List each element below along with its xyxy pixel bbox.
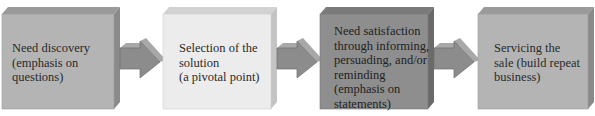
step-4-box: Servicing the sale (build repeat busines… — [474, 0, 595, 112]
step-3-box: Need satisfaction through informing, per… — [317, 0, 439, 112]
step-1-box: Need discovery (emphasis on questions) — [0, 0, 122, 112]
step-3-label: Need satisfaction through informing, per… — [334, 24, 429, 111]
step-2-box: Selection of the solution (a pivotal poi… — [160, 0, 282, 112]
step-1-label: Need discovery (emphasis on questions) — [12, 41, 90, 85]
step-2-label: Selection of the solution (a pivotal poi… — [179, 41, 260, 85]
step-4-label: Servicing the sale (build repeat busines… — [494, 41, 580, 85]
